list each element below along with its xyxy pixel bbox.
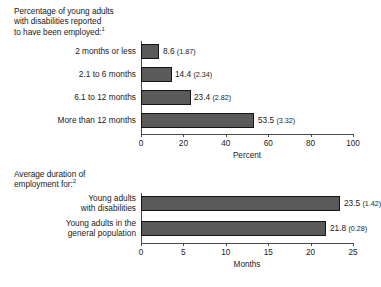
chart-1-xtick-100: [353, 134, 354, 137]
chart-1-se-3: (3.32): [276, 116, 295, 125]
chart-1-category-label-2: 6.1 to 12 months: [20, 93, 136, 103]
chart-1-xtick-label-100: 100: [346, 139, 360, 148]
chart-2-xtick-0: [141, 243, 142, 246]
chart-1-xtick-label-60: 60: [264, 139, 273, 148]
chart-2-bar-0: [141, 196, 340, 211]
chart-panel-percentage-employed: Percentage of young adults with disabili…: [0, 0, 372, 165]
chart-2-plot-area: 0 5 10 15 20 25 Months Young adults with…: [0, 165, 372, 287]
chart-2-se-1: (0.28): [348, 224, 367, 233]
chart-2-xtick-label-15: 15: [264, 248, 273, 257]
chart-2-se-0: (1.42): [362, 199, 381, 208]
chart-1-xtick-label-20: 20: [179, 139, 188, 148]
chart-1-x-axis-title: Percent: [233, 151, 261, 160]
chart-1-xtick-40: [226, 134, 227, 137]
chart-1-value-label-2: 23.4 (2.82): [194, 93, 231, 103]
chart-1-category-label-0: 2 months or less: [20, 47, 136, 57]
chart-2-value-1: 21.8: [330, 223, 346, 233]
chart-1-value-2: 23.4: [194, 92, 210, 102]
chart-1-x-axis-line: [141, 134, 353, 135]
chart-1-value-label-0: 8.6 (1.87): [163, 47, 196, 57]
chart-2-xtick-label-10: 10: [221, 248, 230, 257]
chart-2-bar-1: [141, 221, 326, 236]
chart-1-xtick-label-0: 0: [139, 139, 144, 148]
chart-1-value-label-3: 53.5 (3.32): [258, 116, 295, 126]
chart-2-value-label-0: 23.5 (1.42): [344, 199, 381, 209]
chart-2-xtick-label-0: 0: [139, 248, 144, 257]
chart-1-xtick-80: [311, 134, 312, 137]
chart-2-category-label-0: Young adults with disabilities: [26, 194, 136, 213]
chart-1-se-0: (1.87): [177, 47, 196, 56]
chart-2-x-axis-title: Months: [234, 260, 261, 269]
chart-1-xtick-label-40: 40: [221, 139, 230, 148]
chart-2-xtick-15: [268, 243, 269, 246]
chart-1-xtick-label-80: 80: [306, 139, 315, 148]
chart-1-xtick-20: [183, 134, 184, 137]
chart-1-bar-2: [141, 90, 191, 105]
chart-2-xtick-label-5: 5: [181, 248, 186, 257]
chart-1-bar-1: [141, 67, 172, 82]
chart-2-xtick-5: [183, 243, 184, 246]
chart-2-xtick-10: [226, 243, 227, 246]
chart-1-value-3: 53.5: [258, 115, 274, 125]
chart-1-xtick-60: [268, 134, 269, 137]
chart-2-x-axis-line: [141, 243, 353, 244]
chart-1-value-0: 8.6: [163, 46, 175, 56]
chart-panel-average-duration: Average duration of employment for:2 0 5…: [0, 165, 372, 287]
chart-2-xtick-20: [311, 243, 312, 246]
chart-1-se-2: (2.82): [212, 93, 231, 102]
chart-1-bar-3: [141, 113, 254, 128]
chart-1-se-1: (2.34): [193, 70, 212, 79]
chart-1-xtick-0: [141, 134, 142, 137]
chart-1-bar-0: [141, 44, 159, 59]
chart-1-category-label-3: More than 12 months: [20, 116, 136, 126]
chart-1-category-label-1: 2.1 to 6 months: [20, 70, 136, 80]
chart-1-value-label-1: 14.4 (2.34): [175, 70, 212, 80]
chart-2-value-label-1: 21.8 (0.28): [330, 224, 367, 234]
chart-2-value-0: 23.5: [344, 198, 360, 208]
chart-2-xtick-label-25: 25: [348, 248, 357, 257]
chart-2-xtick-25: [353, 243, 354, 246]
chart-2-xtick-label-20: 20: [306, 248, 315, 257]
chart-2-category-label-1: Young adults in the general population: [26, 219, 136, 238]
chart-1-value-1: 14.4: [175, 69, 191, 79]
chart-1-plot-area: 0 20 40 60 80 100 Percent 2 months or le…: [0, 0, 372, 165]
